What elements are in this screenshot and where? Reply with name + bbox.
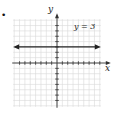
coordinate-plane [0, 0, 115, 119]
axes [12, 13, 111, 108]
equation-label: y = 3 [74, 23, 95, 31]
x-axis-label: x [105, 64, 110, 73]
y-axis-label: y [48, 5, 53, 14]
